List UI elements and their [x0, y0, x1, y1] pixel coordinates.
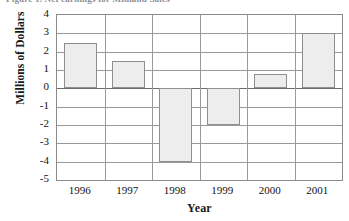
y-tick-label: 4	[29, 8, 49, 19]
y-tick-label: -1	[29, 100, 49, 111]
x-tick-label-2000: 2000	[246, 184, 294, 196]
gridline-vertical	[105, 15, 106, 180]
bar-1999	[207, 88, 240, 125]
bar-2001	[302, 33, 335, 88]
y-tick-label: -2	[29, 118, 49, 129]
bar-2000	[254, 74, 287, 89]
y-tick-label: 1	[29, 63, 49, 74]
plot-area	[56, 14, 343, 181]
y-tick-label: 2	[29, 45, 49, 56]
bar-chart: Millions of Dollars 43210-1-2-3-4-5 1996…	[0, 0, 349, 221]
gridline-vertical	[152, 15, 153, 180]
x-axis-title: Year	[56, 201, 343, 216]
y-axis-tick-labels: 43210-1-2-3-4-5	[29, 14, 49, 181]
x-tick-label-2001: 2001	[294, 184, 342, 196]
x-tick-label-1997: 1997	[104, 184, 152, 196]
x-axis-tick-labels: 199619971998199920002001	[56, 184, 343, 198]
gridline-vertical	[247, 15, 248, 180]
x-tick-label-1999: 1999	[199, 184, 247, 196]
gridline-vertical	[200, 15, 201, 180]
gridline-vertical	[295, 15, 296, 180]
x-tick-label-1998: 1998	[151, 184, 199, 196]
y-tick-label: -3	[29, 136, 49, 147]
x-tick-label-1996: 1996	[56, 184, 104, 196]
y-tick-label: -5	[29, 173, 49, 184]
y-tick-label: 3	[29, 26, 49, 37]
y-axis-title: Millions of Dollars	[14, 0, 26, 123]
bar-1998	[159, 88, 192, 161]
y-tick-label: -4	[29, 155, 49, 166]
y-tick-label: 0	[29, 81, 49, 92]
bar-1997	[112, 61, 145, 89]
bar-1996	[64, 43, 97, 89]
